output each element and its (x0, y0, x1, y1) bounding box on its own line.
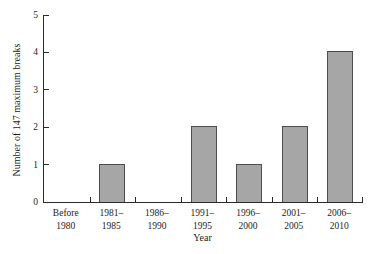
y-axis-tick-label: 4 (10, 46, 38, 58)
y-axis-tick-label: 2 (10, 121, 38, 133)
bar-1996-2000 (236, 164, 262, 202)
y-axis-tick-label: 1 (10, 159, 38, 171)
x-axis-tick (226, 197, 227, 202)
plot-area (43, 15, 363, 203)
bar-2001-2005 (282, 126, 308, 202)
x-axis-title: Year (43, 232, 362, 243)
x-axis-category-label: 1996–2000 (225, 207, 271, 233)
y-axis-tick (44, 164, 49, 165)
y-axis-tick (44, 15, 49, 16)
bar-1981-1985 (99, 164, 125, 202)
bar-2006-2010 (327, 51, 353, 202)
x-axis-tick (272, 197, 273, 202)
bar-1991-1995 (191, 126, 217, 202)
x-axis-tick (317, 197, 318, 202)
bar-chart-figure: Number of 147 maximum breaks Year 012345… (0, 0, 382, 254)
y-axis-tick-label: 0 (10, 196, 38, 208)
y-axis-tick (44, 127, 49, 128)
x-axis-category-label: Before1980 (43, 207, 89, 233)
x-axis-category-label: 1986–1990 (134, 207, 180, 233)
x-axis-tick (90, 197, 91, 202)
x-axis-category-label: 1991–1995 (180, 207, 226, 233)
x-axis-tick (135, 197, 136, 202)
y-axis-title: Number of 147 maximum breaks (11, 44, 22, 177)
x-axis-category-label: 2001–2005 (271, 207, 317, 233)
x-axis-category-label: 1981–1985 (89, 207, 135, 233)
x-axis-tick (181, 197, 182, 202)
y-axis-tick-label: 5 (10, 9, 38, 21)
x-axis-category-label: 2006–2010 (316, 207, 362, 233)
y-axis-tick (44, 52, 49, 53)
y-axis-tick-label: 3 (10, 84, 38, 96)
y-axis-tick (44, 89, 49, 90)
x-axis-tick (362, 197, 363, 202)
